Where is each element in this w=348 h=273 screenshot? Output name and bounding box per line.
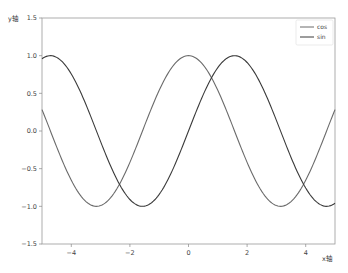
x-tick-label: 0	[186, 249, 190, 257]
y-tick-label: 0.0	[27, 127, 37, 135]
x-tick-label: 2	[245, 249, 249, 257]
y-tick-label: 1.5	[27, 14, 37, 22]
y-tick-label: −1.0	[21, 203, 37, 211]
y-tick-label: −1.5	[21, 240, 37, 248]
legend-box	[296, 20, 333, 45]
x-tick-label: −4	[67, 249, 77, 257]
legend: cos sin	[296, 20, 333, 45]
y-tick-label: 1.0	[27, 52, 37, 60]
y-tick-label: −0.5	[21, 165, 37, 173]
x-tick-label: −2	[125, 249, 135, 257]
legend-cos-label: cos	[317, 23, 327, 30]
y-tick-label: 0.5	[27, 90, 37, 98]
y-axis-label: y轴	[8, 14, 19, 23]
x-axis-label: x轴	[322, 254, 333, 263]
x-tick-label: 4	[304, 249, 308, 257]
y-axis: 1.51.00.50.0−0.5−1.0−1.5	[21, 14, 42, 248]
line-chart: 1.51.00.50.0−0.5−1.0−1.5 −4−2024 y轴 x轴 c…	[0, 0, 348, 273]
legend-sin-label: sin	[317, 33, 326, 40]
x-axis: −4−2024	[67, 244, 308, 257]
